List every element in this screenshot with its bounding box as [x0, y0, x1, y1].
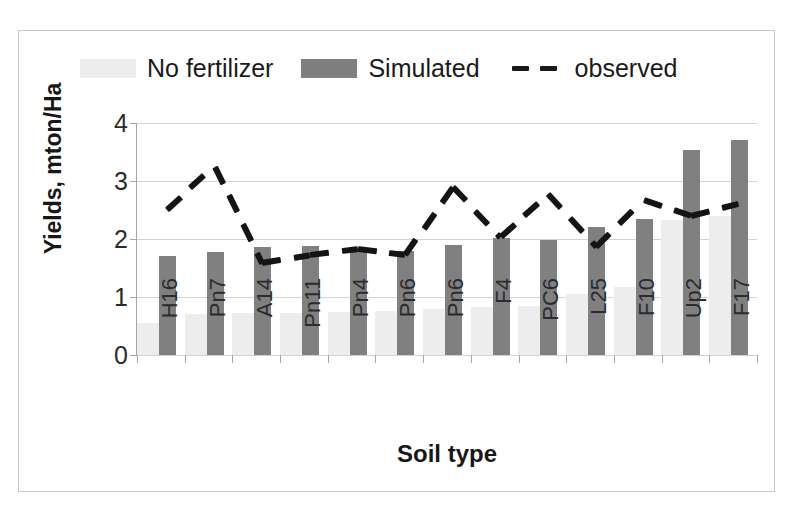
bar-no-fertilizer — [232, 313, 254, 355]
x-tick-label-pn6-5: Pn6 — [395, 278, 421, 368]
y-tick-label-0: 0 — [88, 341, 128, 370]
bar-no-fertilizer — [328, 312, 350, 356]
y-tick-mark-2 — [130, 239, 137, 240]
gridline-y-3 — [137, 181, 757, 182]
y-tick-label-4: 4 — [88, 109, 128, 138]
legend-entry-simulated[interactable]: Simulated — [301, 54, 479, 83]
legend-label-no-fertilizer: No fertilizer — [147, 54, 273, 83]
y-tick-mark-3 — [130, 181, 137, 182]
bar-no-fertilizer — [614, 287, 636, 355]
gridline-y-4 — [137, 123, 757, 124]
y-axis-title: Yields, mton/Ha — [40, 54, 67, 284]
x-tick-label-a14-2: A14 — [252, 278, 278, 368]
x-tick-mark — [423, 355, 424, 363]
x-tick-label-h16-0: H16 — [157, 278, 183, 368]
legend-entry-observed[interactable]: observed — [508, 54, 678, 83]
y-tick-label-1: 1 — [88, 283, 128, 312]
x-tick-mark — [566, 355, 567, 363]
legend-label-simulated: Simulated — [368, 54, 479, 83]
x-tick-mark — [471, 355, 472, 363]
x-tick-mark — [519, 355, 520, 363]
bar-no-fertilizer — [137, 323, 159, 355]
y-tick-mark-4 — [130, 123, 137, 124]
y-tick-label-3: 3 — [88, 167, 128, 196]
x-tick-mark — [757, 355, 758, 363]
x-tick-label-f10-10: F10 — [634, 278, 660, 368]
x-tick-label-l25-9: L25 — [586, 278, 612, 368]
chart-figure: No fertilizer Simulated observed Yields,… — [0, 0, 796, 515]
y-tick-mark-1 — [130, 297, 137, 298]
x-tick-label-pn7-1: Pn7 — [205, 278, 231, 368]
bar-no-fertilizer — [471, 307, 493, 355]
y-axis-tick-labels: 43210 — [88, 123, 128, 355]
y-tick-label-2: 2 — [88, 225, 128, 254]
x-tick-mark — [232, 355, 233, 363]
legend-dashed-line-icon — [508, 59, 564, 78]
chart-legend: No fertilizer Simulated observed — [80, 48, 677, 88]
x-tick-mark — [614, 355, 615, 363]
x-tick-mark — [137, 355, 138, 363]
bar-no-fertilizer — [375, 311, 397, 355]
legend-entry-no-fertilizer[interactable]: No fertilizer — [80, 54, 273, 83]
x-tick-label-f17-12: F17 — [729, 278, 755, 368]
x-tick-mark — [709, 355, 710, 363]
bar-no-fertilizer — [185, 314, 207, 355]
x-tick-mark — [375, 355, 376, 363]
bar-no-fertilizer — [709, 216, 731, 355]
legend-label-observed: observed — [575, 54, 678, 83]
bar-no-fertilizer — [423, 309, 445, 355]
x-tick-mark — [662, 355, 663, 363]
x-tick-label-pn11-3: Pn11 — [300, 278, 326, 368]
x-axis-title: Soil type — [137, 440, 757, 468]
x-tick-label-pn6-6: Pn6 — [443, 278, 469, 368]
x-tick-mark — [280, 355, 281, 363]
x-tick-label-pn4-4: Pn4 — [348, 278, 374, 368]
x-tick-mark — [328, 355, 329, 363]
y-tick-mark-0 — [130, 355, 137, 356]
x-tick-mark — [185, 355, 186, 363]
bar-no-fertilizer — [566, 294, 588, 355]
x-tick-label-up2-11: Up2 — [681, 278, 707, 368]
x-tick-label-pc6-8: PC6 — [538, 278, 564, 368]
legend-swatch-simulated-icon — [301, 59, 357, 78]
legend-swatch-no-fertilizer-icon — [80, 59, 136, 78]
x-tick-label-f4-7: F4 — [491, 278, 517, 368]
bar-no-fertilizer — [280, 313, 302, 355]
